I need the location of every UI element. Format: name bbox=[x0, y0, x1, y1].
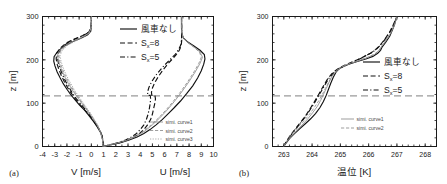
curve-v- bbox=[54, 17, 103, 147]
panel-b-xlabel: 温位 [K] bbox=[337, 166, 371, 177]
x-tick-label: 7 bbox=[175, 150, 179, 159]
x-tick-label: -3 bbox=[51, 150, 58, 159]
x-tick-label: 263 bbox=[278, 151, 290, 158]
legend-label: Sx=5 bbox=[141, 52, 160, 63]
y-tick-label: 0 bbox=[34, 142, 38, 151]
y-tick-label: 0 bbox=[265, 143, 269, 150]
x-tick-label: -1 bbox=[76, 150, 83, 159]
legend-label: 風車なし bbox=[384, 56, 420, 67]
x-tick-label: 1 bbox=[102, 150, 106, 159]
y-tick-label: 300 bbox=[26, 12, 38, 21]
legend-small-label: simi. curve1 bbox=[357, 116, 384, 122]
panel-a-velocity-profiles: -4-3-2-1012345678910 0100200300 V [m/s] … bbox=[0, 0, 224, 184]
panel-a-label: (a) bbox=[9, 168, 19, 178]
legend-small-label: simi. curve2 bbox=[166, 128, 193, 134]
panel-b-temperature-profiles: 263264265266267268 0100200300 温位 [K] z [… bbox=[223, 0, 447, 184]
x-tick-label: -2 bbox=[64, 150, 71, 159]
panel-a-x-tick-labels: -4-3-2-1012345678910 bbox=[39, 150, 217, 159]
y-tick-label: 300 bbox=[257, 13, 269, 20]
panel-a-legend-small: simi. curve1simi. curve2simi. curve3 bbox=[150, 119, 193, 142]
panel-b-legend: 風車なしSx=8Sx=5 bbox=[363, 56, 420, 96]
x-tick-label: 264 bbox=[306, 151, 318, 158]
legend-label: Sx=5 bbox=[384, 85, 403, 96]
panel-b-svg: 263264265266267268 0100200300 温位 [K] z [… bbox=[223, 0, 447, 184]
x-tick-label: 268 bbox=[419, 151, 431, 158]
panel-b-x-tick-labels: 263264265266267268 bbox=[278, 151, 431, 158]
y-tick-label: 100 bbox=[26, 99, 38, 108]
y-tick-label: 200 bbox=[257, 57, 269, 64]
x-tick-label: 9 bbox=[199, 150, 203, 159]
curve-v-s-x-8 bbox=[56, 17, 103, 147]
panel-b-label: (b) bbox=[239, 168, 249, 178]
legend-label: Sx=8 bbox=[141, 38, 160, 49]
legend-label: 風車なし bbox=[141, 23, 177, 34]
panel-a-xlabel-v: V [m/s] bbox=[71, 166, 101, 177]
panel-a-svg: -4-3-2-1012345678910 0100200300 V [m/s] … bbox=[0, 0, 224, 184]
panel-a-ylabel: z [m] bbox=[7, 71, 18, 92]
legend-label: Sx=8 bbox=[384, 71, 403, 82]
panel-b-y-tick-labels: 0100200300 bbox=[257, 13, 269, 150]
panel-a-y-tick-labels: 0100200300 bbox=[26, 12, 38, 151]
legend-small-label: simi. curve2 bbox=[357, 125, 384, 131]
figure-container: -4-3-2-1012345678910 0100200300 V [m/s] … bbox=[0, 0, 447, 184]
x-tick-label: 5 bbox=[150, 150, 154, 159]
panel-a-xlabel-u: U [m/s] bbox=[160, 166, 190, 177]
legend-small-label: simi. curve3 bbox=[166, 136, 193, 142]
legend-small-label: simi. curve1 bbox=[166, 119, 193, 125]
x-tick-label: 4 bbox=[138, 150, 142, 159]
y-tick-label: 200 bbox=[26, 56, 38, 65]
x-tick-label: 2 bbox=[114, 150, 118, 159]
y-tick-label: 100 bbox=[257, 100, 269, 107]
x-tick-label: -4 bbox=[39, 150, 46, 159]
x-tick-label: 8 bbox=[187, 150, 191, 159]
x-tick-label: 266 bbox=[363, 151, 375, 158]
x-tick-label: 0 bbox=[89, 150, 93, 159]
x-tick-label: 6 bbox=[163, 150, 167, 159]
x-tick-label: 3 bbox=[126, 150, 130, 159]
x-tick-label: 265 bbox=[335, 151, 347, 158]
panel-a-legend: 風車なしSx=8Sx=5 bbox=[120, 23, 177, 63]
panel-b-ylabel: z [m] bbox=[237, 71, 248, 92]
panel-b-legend-small: simi. curve1simi. curve2 bbox=[341, 116, 384, 131]
x-tick-label: 10 bbox=[209, 150, 217, 159]
x-tick-label: 267 bbox=[391, 151, 403, 158]
